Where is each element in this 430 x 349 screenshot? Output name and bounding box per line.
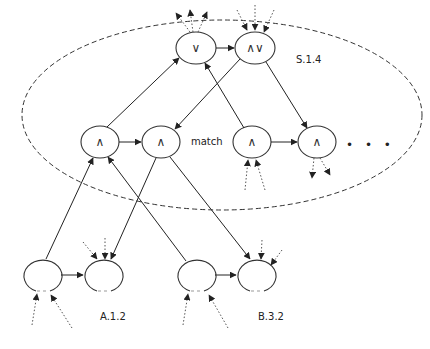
match-label: match	[191, 136, 223, 147]
symbol-and: ∧	[157, 135, 166, 149]
node-bot-b2	[238, 260, 276, 291]
symbol-and: ∧	[313, 135, 322, 149]
symbol-and: ∧	[96, 135, 105, 149]
symbol-and: ∧	[248, 135, 257, 149]
node-bot-b1	[178, 260, 216, 291]
symbol-or: ∨	[192, 41, 201, 55]
node-bot-a1	[24, 260, 62, 291]
node-bot-a2	[85, 260, 123, 291]
symbol-and-or: ∧∨	[246, 41, 264, 55]
label-a: A.1.2	[100, 311, 126, 322]
region-label: S.1.4	[296, 54, 321, 65]
label-b: B.3.2	[258, 311, 284, 322]
diagram-svg	[0, 0, 430, 349]
ellipsis-label: • • •	[346, 138, 395, 152]
diagram-canvas: ∨ ∧∨ ∧ ∧ ∧ ∧ S.1.4 match • • • A.1.2 B.3…	[0, 0, 430, 349]
